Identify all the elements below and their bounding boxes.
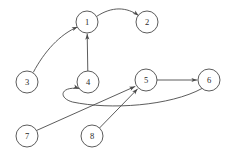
- node-label: 7: [25, 131, 29, 141]
- edge-4-to-1: [85, 34, 89, 71]
- edge-line: [87, 34, 88, 71]
- node-label: 2: [145, 17, 149, 27]
- edge-line: [97, 9, 139, 17]
- edge-line: [100, 89, 138, 128]
- edge-1-to-2: [97, 9, 140, 17]
- graph-node-8[interactable]: 8: [81, 125, 103, 147]
- nodes-layer: 12345678: [16, 11, 220, 147]
- edge-line: [34, 27, 78, 72]
- node-label: 3: [25, 77, 29, 87]
- graph-node-7[interactable]: 7: [16, 125, 38, 147]
- graph-diagram: 12345678: [0, 0, 236, 158]
- edges-layer: [34, 9, 203, 131]
- node-label: 1: [85, 17, 89, 27]
- graph-node-1[interactable]: 1: [76, 11, 98, 33]
- graph-node-2[interactable]: 2: [136, 11, 158, 33]
- graph-canvas: 12345678: [0, 0, 236, 158]
- graph-node-5[interactable]: 5: [135, 69, 157, 91]
- node-label: 6: [207, 75, 211, 85]
- arrow-head-icon: [129, 85, 136, 91]
- node-label: 5: [144, 75, 148, 85]
- graph-node-6[interactable]: 6: [198, 69, 220, 91]
- edge-5-to-6: [157, 78, 197, 82]
- graph-node-3[interactable]: 3: [16, 71, 38, 93]
- edge-3-to-1: [34, 25, 79, 72]
- graph-node-4[interactable]: 4: [77, 71, 99, 93]
- node-label: 8: [90, 131, 94, 141]
